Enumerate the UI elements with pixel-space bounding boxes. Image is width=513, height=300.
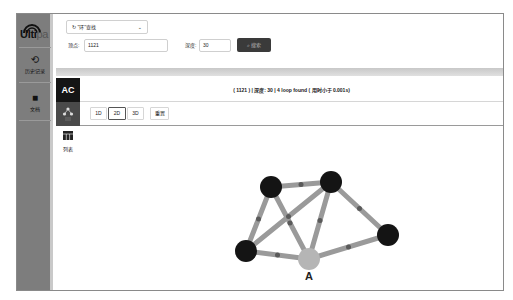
edge-marker: [275, 253, 280, 258]
app-window: Ultipa ⟲ 历史记录 ■ 文档 ↻ "环"查找 ⌄ 顶点: 1121 深度…: [16, 13, 504, 291]
graph-node[interactable]: [377, 224, 399, 246]
edge-marker: [318, 218, 323, 223]
edge-marker: [288, 221, 293, 226]
edge-marker: [346, 245, 351, 250]
node-label-a: A: [305, 270, 313, 282]
graph-node[interactable]: [260, 176, 282, 198]
graph-node[interactable]: [235, 240, 257, 262]
graph-node[interactable]: [320, 171, 342, 193]
edge-marker: [286, 214, 291, 219]
edge-marker: [256, 217, 261, 222]
edge-marker: [357, 206, 362, 211]
edge-marker: [299, 182, 304, 187]
graph-node[interactable]: [298, 248, 320, 270]
graph-canvas[interactable]: [17, 14, 504, 291]
